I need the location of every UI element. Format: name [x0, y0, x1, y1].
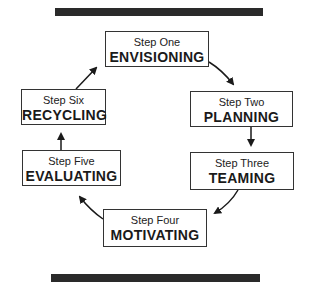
step-number: Step Five — [23, 155, 120, 168]
step-envisioning-box: Step One ENVISIONING — [105, 31, 209, 67]
step-number: Step Two — [191, 96, 292, 109]
arrow-recycling-to-envisioning — [76, 68, 96, 89]
step-name: EVALUATING — [23, 168, 120, 184]
step-number: Step Three — [191, 157, 293, 170]
step-name: ENVISIONING — [106, 49, 208, 65]
step-name: RECYCLING — [22, 107, 105, 123]
step-recycling-box: Step Six RECYCLING — [21, 89, 106, 125]
bottom-rule — [51, 274, 260, 282]
step-planning-box: Step Two PLANNING — [190, 91, 293, 127]
arrow-teaming-to-motivating — [215, 190, 238, 213]
step-number: Step One — [106, 36, 208, 49]
step-motivating-box: Step Four MOTIVATING — [103, 209, 207, 247]
arrow-motivating-to-evaluating — [80, 197, 103, 219]
step-name: TEAMING — [191, 170, 293, 186]
arrow-envisioning-to-planning — [209, 62, 233, 84]
step-teaming-box: Step Three TEAMING — [190, 152, 294, 190]
step-evaluating-box: Step Five EVALUATING — [22, 150, 121, 186]
step-number: Step Six — [22, 94, 105, 107]
step-name: PLANNING — [191, 109, 292, 125]
step-name: MOTIVATING — [104, 227, 206, 243]
step-number: Step Four — [104, 214, 206, 227]
